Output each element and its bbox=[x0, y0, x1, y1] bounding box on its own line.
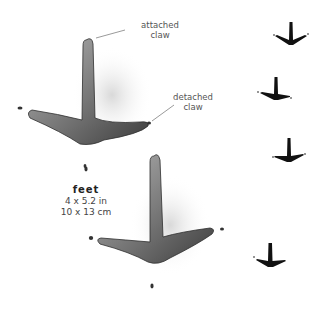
trail-mark-2 bbox=[257, 77, 292, 100]
caption-size-imperial: 4 x 5.2 in bbox=[48, 196, 124, 207]
caption-size-metric: 10 x 13 cm bbox=[48, 207, 124, 218]
illustration bbox=[0, 0, 328, 319]
attached-claw-line-1: attached bbox=[138, 20, 182, 30]
caption-title: feet bbox=[48, 184, 124, 196]
track-trail bbox=[253, 22, 309, 267]
attached-claw-leader bbox=[96, 30, 125, 38]
detached-claw-line-2: claw bbox=[168, 102, 218, 112]
detached-claw-line-1: detached bbox=[168, 92, 218, 102]
footprint-lower bbox=[84, 155, 224, 289]
attached-claw-line-2: claw bbox=[138, 30, 182, 40]
detached-claw-label: detached claw bbox=[168, 92, 218, 112]
attached-claw-label: attached claw bbox=[138, 20, 182, 40]
trail-mark-1 bbox=[273, 22, 309, 45]
size-caption: feet 4 x 5.2 in 10 x 13 cm bbox=[48, 184, 124, 218]
trail-mark-4 bbox=[253, 243, 286, 267]
footprint-upper bbox=[18, 39, 153, 172]
trail-mark-3 bbox=[272, 138, 306, 162]
